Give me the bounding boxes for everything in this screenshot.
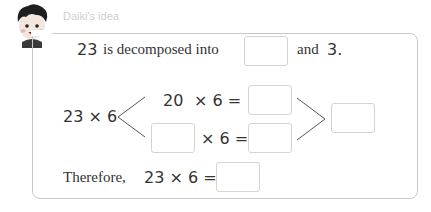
bottom-product-answer-box[interactable] [248,123,292,153]
conclusion-expression: 23 × 6 = [144,168,217,187]
top-operation: × 6 = [194,91,241,110]
split-bracket-icon [116,96,146,138]
second-part-number: 3. [327,40,342,59]
therefore-label: Therefore, [63,169,126,186]
decomposed-part-answer-box[interactable] [244,36,288,66]
number-23: 23 [77,40,97,59]
section-title: Daiki's idea [63,10,119,22]
decomposed-text: is decomposed into [103,41,219,58]
and-text: and [297,41,319,58]
final-answer-box[interactable] [216,162,260,192]
total-answer-box[interactable] [331,103,375,133]
merge-bracket-icon [296,97,326,141]
top-number-20: 20 [163,91,183,110]
top-product-answer-box[interactable] [248,85,292,115]
bottom-factor-answer-box[interactable] [151,123,195,153]
box-top-mask [31,30,53,36]
bottom-operation: × 6 = [201,129,248,148]
left-expression: 23 × 6 [63,107,117,126]
title-divider [52,33,408,34]
